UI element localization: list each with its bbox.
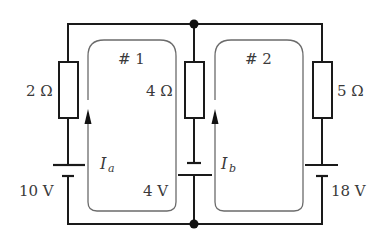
loop-1-label: # 1 [118, 50, 145, 68]
battery-middle [178, 163, 212, 175]
resistor-middle [185, 62, 204, 118]
svg-text:a: a [108, 162, 115, 175]
battery-middle-label: 4 V [143, 182, 169, 200]
loop-2-label: # 2 [245, 50, 272, 68]
resistor-right [313, 62, 332, 118]
svg-text:b: b [229, 162, 236, 175]
circuit-diagram: 2 Ω 4 Ω 5 Ω 10 V 4 V 18 V # 1 # 2 I a I … [0, 0, 388, 242]
loop-2-arrow-icon [212, 109, 219, 124]
junction-dot-top [190, 20, 199, 29]
junction-dot-bottom [190, 220, 199, 229]
resistor-left-label: 2 Ω [26, 82, 53, 100]
resistor-middle-label: 4 Ω [146, 82, 173, 100]
resistor-right-label: 5 Ω [337, 82, 364, 100]
battery-right [305, 165, 338, 176]
wires [68, 24, 322, 224]
battery-right-label: 18 V [331, 182, 367, 200]
svg-text:I: I [99, 154, 107, 173]
loop-1-arrow-icon [85, 109, 92, 124]
current-label-a: I a [99, 154, 115, 175]
battery-left-label: 10 V [19, 182, 55, 200]
current-label-b: I b [220, 154, 236, 175]
resistor-left [59, 62, 78, 118]
svg-text:I: I [220, 154, 228, 173]
battery-left [53, 165, 85, 176]
